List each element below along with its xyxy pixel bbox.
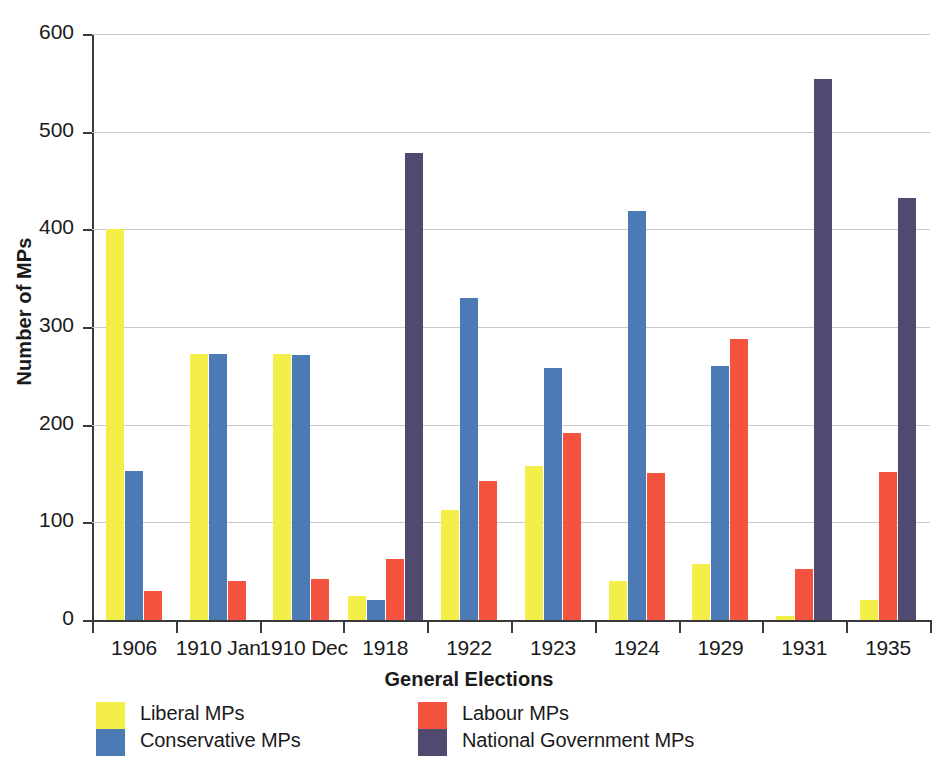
legend-column-right: Labour MPs National Government MPs [418, 700, 694, 754]
bar-group [679, 34, 763, 620]
bar [525, 466, 543, 620]
bar [563, 433, 581, 620]
x-tick [930, 620, 932, 633]
bar [190, 354, 208, 620]
y-axis-title: Number of MPs [13, 102, 36, 522]
legend-label-national-government: National Government MPs [462, 727, 694, 754]
x-tick [427, 620, 429, 633]
bar [386, 559, 404, 620]
x-tick-label: 1922 [427, 636, 511, 660]
bar-group [343, 34, 427, 620]
x-tick-label: 1918 [343, 636, 427, 660]
bar-group [260, 34, 344, 620]
y-tick-label-300: 300 [0, 313, 74, 337]
bar-chart: Number of MPs 0100200300400500600 190619… [0, 0, 938, 781]
bar [311, 579, 329, 620]
y-tick-label-200: 200 [0, 411, 74, 435]
bar [628, 211, 646, 620]
y-tick-label-100: 100 [0, 508, 74, 532]
legend-column-left: Liberal MPs Conservative MPs [96, 700, 301, 754]
bar [544, 368, 562, 620]
bar [795, 569, 813, 620]
bar [367, 600, 385, 621]
bar [348, 596, 366, 620]
x-tick [343, 620, 345, 633]
legend-label-liberal: Liberal MPs [140, 700, 301, 727]
x-tick-label: 1910 Jan [176, 636, 260, 660]
x-tick-label: 1931 [762, 636, 846, 660]
bar [106, 229, 124, 620]
legend-swatches-right [418, 702, 447, 756]
bar [228, 581, 246, 620]
y-tick-label-500: 500 [0, 118, 74, 142]
y-tick-label-0: 0 [0, 606, 74, 630]
bar [609, 581, 627, 620]
x-tick-label: 1910 Dec [260, 636, 344, 660]
legend-labels-right: Labour MPs National Government MPs [462, 700, 694, 754]
plot-area [92, 34, 930, 620]
x-tick-label: 1935 [846, 636, 930, 660]
legend-label-conservative: Conservative MPs [140, 727, 301, 754]
legend-label-labour: Labour MPs [462, 700, 694, 727]
x-tick-label: 1923 [511, 636, 595, 660]
bar [879, 472, 897, 620]
legend-swatch-conservative [96, 729, 125, 756]
x-tick [595, 620, 597, 633]
x-tick-label: 1906 [92, 636, 176, 660]
legend-swatch-national-government [418, 729, 447, 756]
bar [273, 354, 291, 620]
bar-group [427, 34, 511, 620]
bar-group [595, 34, 679, 620]
bar [711, 366, 729, 620]
legend-swatch-labour [418, 702, 447, 729]
bar-group [176, 34, 260, 620]
bar [647, 473, 665, 620]
legend-labels-left: Liberal MPs Conservative MPs [140, 700, 301, 754]
x-tick [260, 620, 262, 633]
bar [479, 481, 497, 620]
bar [441, 510, 459, 620]
bar [405, 153, 423, 620]
x-tick [762, 620, 764, 633]
bar [898, 198, 916, 620]
x-tick-label: 1924 [595, 636, 679, 660]
legend-swatches-left [96, 702, 125, 756]
bar [125, 471, 143, 620]
bar [460, 298, 478, 620]
x-tick [92, 620, 94, 633]
bar-group [762, 34, 846, 620]
x-tick [846, 620, 848, 633]
bar [692, 564, 710, 620]
bar-group [92, 34, 176, 620]
x-tick-label: 1929 [679, 636, 763, 660]
x-tick [511, 620, 513, 633]
bar [209, 354, 227, 620]
legend-swatch-liberal [96, 702, 125, 729]
bar-group [846, 34, 930, 620]
bar [860, 600, 878, 620]
y-tick-label-400: 400 [0, 215, 74, 239]
bar-group [511, 34, 595, 620]
x-tick [679, 620, 681, 633]
x-axis-title: General Elections [0, 668, 938, 691]
bar [814, 79, 832, 620]
bar [730, 339, 748, 620]
y-tick-label-600: 600 [0, 20, 74, 44]
bar [776, 616, 794, 620]
bar [292, 355, 310, 620]
x-tick [176, 620, 178, 633]
bar [144, 591, 162, 620]
